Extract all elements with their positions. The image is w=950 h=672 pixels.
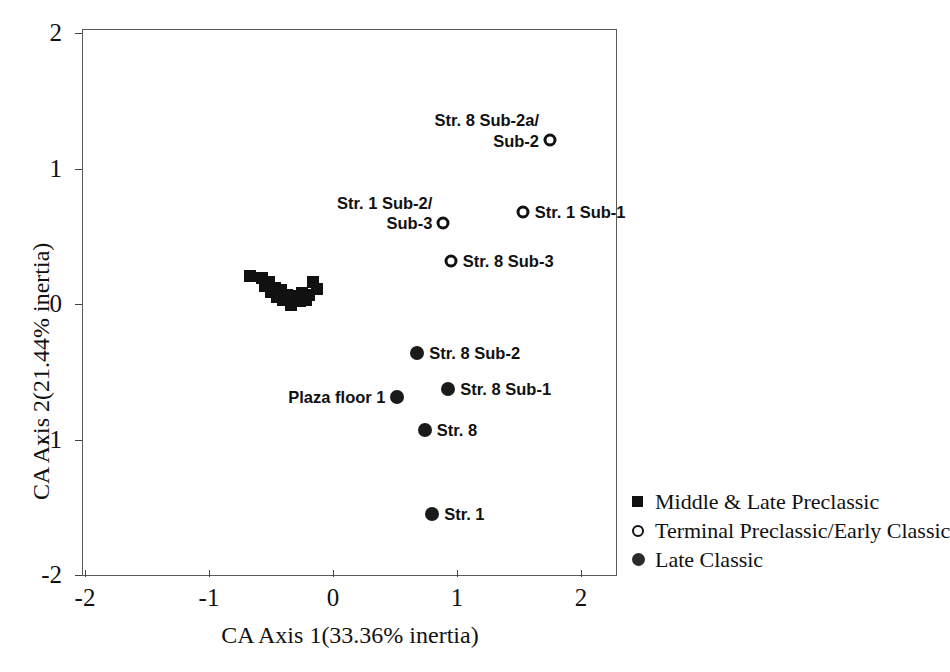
- legend-marker-icon: [632, 553, 650, 566]
- data-point-marker: [437, 216, 450, 229]
- legend-item[interactable]: Terminal Preclassic/Early Classic: [632, 516, 950, 545]
- data-point-label: Str. 8 Sub-2: [429, 342, 520, 363]
- x-tick-mark: [333, 570, 334, 577]
- y-tick-mark: [75, 440, 82, 441]
- legend-item-label: Terminal Preclassic/Early Classic: [655, 518, 950, 544]
- data-point-marker: [544, 134, 557, 147]
- legend-item[interactable]: Middle & Late Preclassic: [632, 487, 950, 516]
- data-point-marker: [441, 382, 455, 396]
- y-tick-mark: [75, 169, 82, 170]
- data-point-label: Str. 1 Sub-1: [535, 201, 626, 222]
- y-axis-title: CA Axis 2(21.44% inertia): [28, 243, 55, 500]
- data-point-marker: [444, 254, 457, 267]
- data-point-label: Str. 1 Sub-2/ Sub-3: [337, 193, 432, 235]
- x-tick-mark: [581, 570, 582, 577]
- y-tick-label: 1: [16, 155, 62, 183]
- x-tick-label: 2: [575, 584, 588, 612]
- x-tick-label: 0: [327, 584, 340, 612]
- x-tick-mark: [457, 570, 458, 577]
- data-point-marker: [311, 283, 323, 295]
- data-point-marker: [390, 390, 404, 404]
- legend-item-label: Late Classic: [655, 547, 763, 573]
- x-axis-title: CA Axis 1(33.36% inertia): [0, 622, 700, 649]
- x-tick-mark: [85, 570, 86, 577]
- data-point-marker: [410, 346, 424, 360]
- y-tick-mark: [75, 33, 82, 34]
- legend-item-label: Middle & Late Preclassic: [655, 489, 879, 515]
- data-point-marker: [425, 507, 439, 521]
- y-tick-mark: [75, 304, 82, 305]
- x-tick-label: 1: [451, 584, 464, 612]
- x-tick-label: -1: [199, 584, 220, 612]
- data-point-label: Str. 8: [437, 420, 477, 441]
- legend-marker-icon: [632, 496, 650, 507]
- data-point-label: Str. 1: [444, 504, 484, 525]
- x-tick-mark: [209, 570, 210, 577]
- legend-marker-icon: [632, 525, 650, 537]
- chart-legend: Middle & Late PreclassicTerminal Preclas…: [632, 487, 950, 574]
- x-tick-label: -2: [75, 584, 96, 612]
- data-point-marker: [418, 423, 432, 437]
- y-tick-mark: [75, 575, 82, 576]
- y-tick-label: -2: [16, 561, 62, 589]
- y-tick-label: 2: [16, 19, 62, 47]
- legend-item[interactable]: Late Classic: [632, 545, 950, 574]
- data-point-label: Str. 8 Sub-2a/ Sub-2: [434, 110, 539, 152]
- data-point-label: Str. 8 Sub-1: [460, 379, 551, 400]
- data-point-marker: [516, 205, 529, 218]
- data-point-marker: [244, 270, 256, 282]
- data-point-label: Plaza floor 1: [288, 387, 385, 408]
- data-point-label: Str. 8 Sub-3: [463, 250, 554, 271]
